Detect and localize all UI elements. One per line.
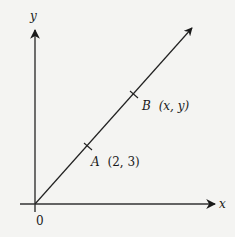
point-a-coords: (2, 3) (108, 155, 140, 169)
line-through-origin (35, 28, 192, 204)
point-b-label: B (x, y) (141, 99, 190, 113)
point-a-label: A (2, 3) (90, 155, 140, 169)
point-b-name: B (141, 99, 151, 113)
origin-label: 0 (36, 214, 44, 228)
y-axis-label: y (29, 9, 37, 23)
point-b-coords: (x, y) (159, 99, 190, 113)
point-a-name: A (90, 155, 100, 169)
x-axis-label: x (219, 197, 226, 211)
coordinate-diagram: y x 0 A (2, 3) B (x, y) (0, 0, 235, 237)
